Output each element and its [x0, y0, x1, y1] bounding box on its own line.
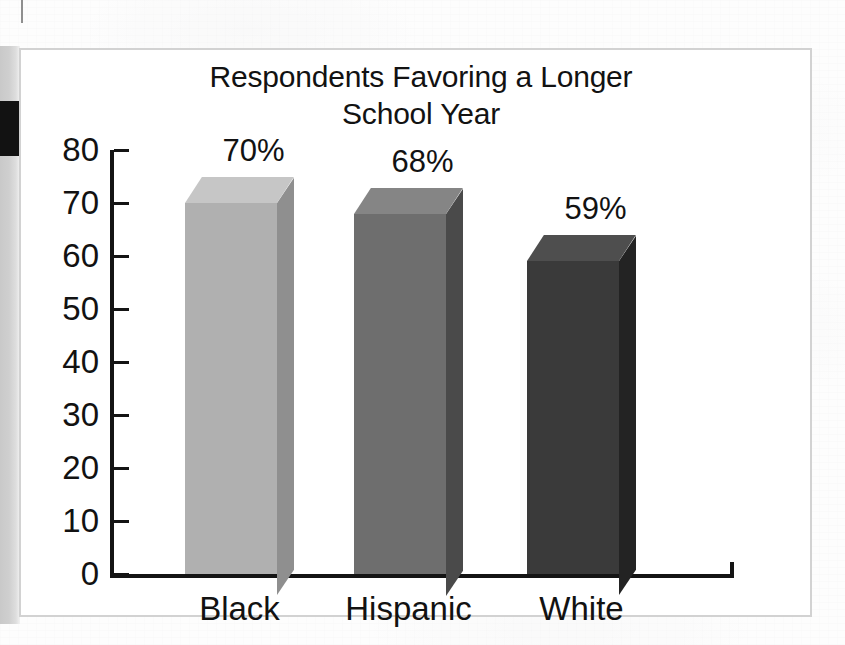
y-axis-tick — [114, 520, 129, 523]
y-axis-line — [110, 150, 114, 578]
y-axis-tick — [114, 202, 129, 205]
scan-artifact-block — [0, 101, 19, 156]
y-axis-tick — [114, 414, 129, 417]
bar-value-label: 68% — [343, 146, 503, 177]
figure-panel: Respondents Favoring a Longer School Yea… — [19, 48, 812, 617]
bar-side-face — [619, 236, 636, 595]
y-axis-tick — [114, 361, 129, 364]
y-axis-tick-label: 80 — [29, 133, 99, 166]
bar-top-face — [185, 177, 294, 203]
plot-area: 80706050403020100 70%68%59% BlackHispani… — [21, 50, 814, 619]
y-axis-tick — [114, 255, 129, 258]
y-axis-tick-label: 20 — [29, 451, 99, 484]
y-axis-tick-label: 0 — [29, 557, 99, 590]
y-axis-tick-label: 10 — [29, 504, 99, 537]
x-axis-line — [110, 574, 734, 578]
scanned-page: Respondents Favoring a Longer School Yea… — [0, 0, 845, 645]
bar-front-face — [354, 214, 446, 574]
y-axis-tick-label: 40 — [29, 345, 99, 378]
y-axis-tick-label: 30 — [29, 398, 99, 431]
y-axis-tick-label: 60 — [29, 239, 99, 272]
bar-front-face — [185, 203, 277, 574]
bar-front-face — [527, 261, 619, 574]
y-axis-tick — [114, 308, 129, 311]
y-axis-tick — [114, 467, 129, 470]
x-axis-end-cap — [730, 562, 734, 578]
y-axis-tick — [114, 573, 129, 576]
bar-column — [527, 50, 636, 574]
bar-value-label: 70% — [174, 135, 334, 166]
page-rule-fragment — [21, 0, 23, 23]
bar-top-face — [354, 188, 463, 214]
bar-column — [354, 50, 463, 574]
y-axis-tick — [114, 149, 129, 152]
bar-column — [185, 50, 294, 574]
bar-side-face — [446, 188, 463, 595]
bar-side-face — [277, 178, 294, 595]
y-axis-tick-label: 70 — [29, 186, 99, 219]
x-axis-category-label: White — [477, 592, 687, 625]
bar-top-face — [527, 235, 636, 261]
y-axis-tick-label: 50 — [29, 292, 99, 325]
bar-value-label: 59% — [516, 193, 676, 224]
